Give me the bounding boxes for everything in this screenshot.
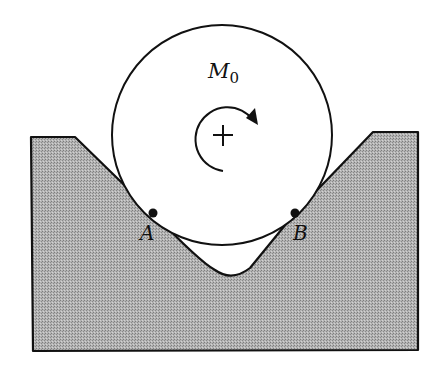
contact-label-a: A (138, 221, 154, 245)
diagram-canvas: M0 A B (0, 0, 443, 367)
contact-point-b (291, 209, 300, 218)
contact-point-a (149, 209, 158, 218)
contact-label-b: B (292, 221, 308, 245)
